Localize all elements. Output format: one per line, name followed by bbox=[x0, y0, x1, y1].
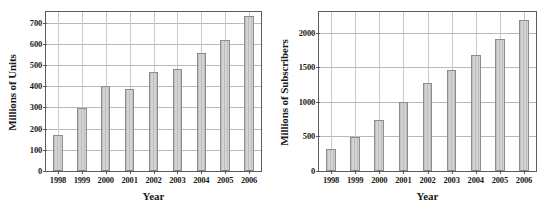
y-axis-tick-label: 300 bbox=[30, 102, 42, 112]
y-axis-tick-label: 600 bbox=[30, 39, 42, 49]
y-axis-tick-mark bbox=[43, 23, 47, 24]
x-axis-tick-label: 2001 bbox=[122, 175, 138, 185]
x-axis-tick-label: 1999 bbox=[74, 175, 90, 185]
x-axis-tick-mark bbox=[428, 170, 429, 174]
x-axis-tick-label: 2004 bbox=[193, 175, 209, 185]
bar bbox=[77, 108, 87, 171]
bar bbox=[197, 53, 207, 171]
x-axis-tick-mark bbox=[177, 170, 178, 174]
x-axis-tick-mark bbox=[201, 170, 202, 174]
plot-area-left: 0100200300400500600700199819992000200120… bbox=[45, 11, 262, 172]
x-axis-tick-label: 2006 bbox=[516, 175, 532, 185]
x-axis-tick-label: 2000 bbox=[371, 175, 387, 185]
x-axis-tick-mark bbox=[500, 170, 501, 174]
x-axis-tick-mark bbox=[331, 170, 332, 174]
figure-page: Millions of Units 0100200300400500600700… bbox=[0, 0, 550, 218]
y-axis-tick-label: 700 bbox=[30, 18, 42, 28]
plot-area-right: 0500100015002000199819992000200120022003… bbox=[318, 11, 537, 172]
bar bbox=[519, 20, 529, 171]
x-axis-tick-mark bbox=[82, 170, 83, 174]
x-axis-tick-mark bbox=[452, 170, 453, 174]
x-axis-tick-mark bbox=[379, 170, 380, 174]
y-axis-tick-mark bbox=[316, 171, 320, 172]
y-axis-tick-label: 1500 bbox=[299, 62, 315, 72]
x-axis-tick-mark bbox=[355, 170, 356, 174]
x-axis-tick-label: 2002 bbox=[419, 175, 435, 185]
bar bbox=[471, 55, 481, 171]
bar bbox=[244, 16, 254, 171]
y-axis-tick-mark bbox=[316, 102, 320, 103]
x-axis-tick-label: 2002 bbox=[145, 175, 161, 185]
y-axis-tick-mark bbox=[43, 129, 47, 130]
y-axis-tick-label: 2000 bbox=[299, 28, 315, 38]
y-axis-tick-label: 500 bbox=[30, 60, 42, 70]
y-axis-tick-label: 400 bbox=[30, 81, 42, 91]
x-axis-tick-label: 2004 bbox=[468, 175, 484, 185]
bar bbox=[53, 135, 63, 171]
y-axis-tick-mark bbox=[43, 171, 47, 172]
x-axis-tick-mark bbox=[225, 170, 226, 174]
bar bbox=[374, 120, 384, 171]
y-axis-tick-label: 1000 bbox=[299, 97, 315, 107]
bar bbox=[101, 86, 111, 171]
x-axis-tick-label: 2006 bbox=[241, 175, 257, 185]
bar bbox=[149, 72, 159, 171]
x-axis-title-left: Year bbox=[45, 190, 262, 202]
y-axis-tick-label: 500 bbox=[303, 131, 315, 141]
bar bbox=[399, 102, 409, 171]
x-axis-tick-mark bbox=[403, 170, 404, 174]
bar bbox=[350, 137, 360, 171]
y-axis-tick-mark bbox=[316, 136, 320, 137]
y-axis-tick-mark bbox=[43, 65, 47, 66]
chart-panel-left: Millions of Units 0100200300400500600700… bbox=[0, 0, 275, 218]
y-axis-tick-mark bbox=[43, 150, 47, 151]
x-axis-tick-mark bbox=[130, 170, 131, 174]
x-axis-tick-label: 1998 bbox=[323, 175, 339, 185]
x-axis-title-right: Year bbox=[318, 190, 537, 202]
y-axis-tick-mark bbox=[43, 107, 47, 108]
x-axis-tick-mark bbox=[476, 170, 477, 174]
bar bbox=[173, 69, 183, 171]
bar bbox=[220, 40, 230, 171]
x-axis-tick-label: 2003 bbox=[444, 175, 460, 185]
bar bbox=[447, 70, 457, 171]
x-axis-tick-label: 1998 bbox=[50, 175, 66, 185]
x-axis-tick-label: 2000 bbox=[98, 175, 114, 185]
y-axis-title-right: Millions of Subscribers bbox=[278, 11, 292, 174]
x-axis-tick-label: 2001 bbox=[395, 175, 411, 185]
chart-panel-right: Millions of Subscribers 0500100015002000… bbox=[275, 0, 550, 218]
y-axis-tick-label: 200 bbox=[30, 124, 42, 134]
y-axis-tick-mark bbox=[43, 86, 47, 87]
y-axis-title-left: Millions of Units bbox=[6, 11, 20, 174]
x-axis-tick-label: 2003 bbox=[169, 175, 185, 185]
x-axis-tick-mark bbox=[524, 170, 525, 174]
bar bbox=[495, 39, 505, 171]
bar bbox=[125, 89, 135, 171]
bar bbox=[423, 83, 433, 171]
gridline-vertical bbox=[331, 12, 332, 171]
x-axis-tick-mark bbox=[58, 170, 59, 174]
x-axis-tick-label: 2005 bbox=[492, 175, 508, 185]
x-axis-tick-label: 2005 bbox=[217, 175, 233, 185]
bar bbox=[326, 149, 336, 171]
y-axis-tick-mark bbox=[43, 44, 47, 45]
y-axis-tick-label: 0 bbox=[38, 166, 42, 176]
x-axis-tick-label: 1999 bbox=[347, 175, 363, 185]
y-axis-tick-label: 0 bbox=[311, 166, 315, 176]
x-axis-tick-mark bbox=[154, 170, 155, 174]
y-axis-tick-label: 100 bbox=[30, 145, 42, 155]
x-axis-tick-mark bbox=[106, 170, 107, 174]
x-axis-tick-mark bbox=[249, 170, 250, 174]
y-axis-tick-mark bbox=[316, 33, 320, 34]
y-axis-tick-mark bbox=[316, 67, 320, 68]
